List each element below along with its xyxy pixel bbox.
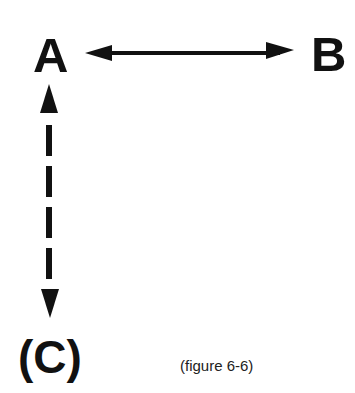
edge-a-b-solid-arrow: [85, 42, 294, 61]
arrows-layer: [0, 0, 355, 393]
edge-a-c-dashed-arrow: [40, 84, 59, 318]
arrowhead-left-icon: [85, 45, 112, 61]
arrowhead-down-icon: [41, 289, 59, 318]
arrowhead-right-icon: [266, 42, 294, 59]
arrowhead-up-icon: [40, 84, 58, 113]
